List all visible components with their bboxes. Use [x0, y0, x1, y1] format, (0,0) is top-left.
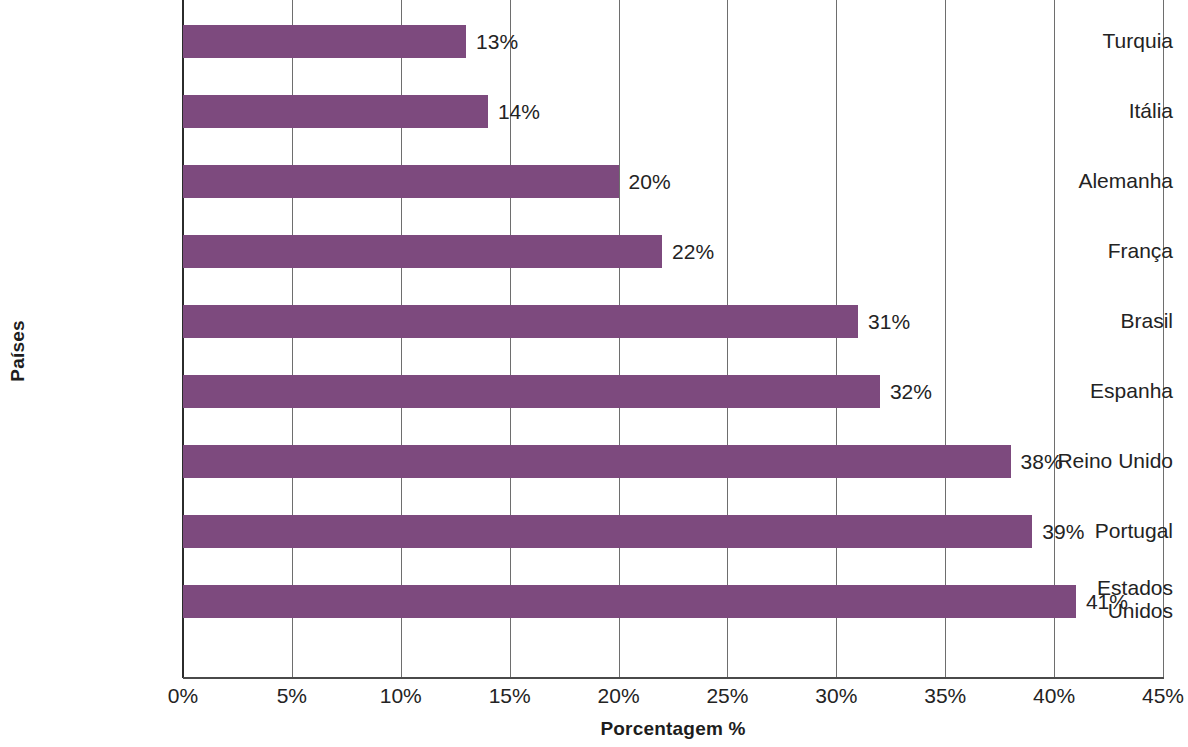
category-label: França	[1008, 239, 1183, 263]
bar-value-label: 31%	[868, 305, 910, 338]
x-tick-label: 35%	[900, 684, 990, 708]
bar-value-label: 22%	[672, 235, 714, 268]
x-tick-label: 15%	[465, 684, 555, 708]
bar-value-label: 32%	[890, 375, 932, 408]
gridline	[619, 0, 620, 678]
x-tick-label: 25%	[682, 684, 772, 708]
bar	[183, 445, 1011, 478]
x-tick-label: 40%	[1009, 684, 1099, 708]
bar	[183, 165, 619, 198]
bar	[183, 25, 466, 58]
category-label: Espanha	[1008, 379, 1183, 403]
category-label: Brasil	[1008, 309, 1183, 333]
category-label: Estados Unidos	[1008, 576, 1183, 623]
category-label: Itália	[1008, 99, 1183, 123]
category-label: Alemanha	[1008, 169, 1183, 193]
x-axis-baseline	[183, 677, 1164, 679]
category-label: Turquia	[1008, 29, 1183, 53]
bar	[183, 585, 1076, 618]
bar	[183, 515, 1032, 548]
bar-value-label: 13%	[476, 25, 518, 58]
x-tick-label: 20%	[574, 684, 664, 708]
gridline	[945, 0, 946, 678]
bar-value-label: 20%	[629, 165, 671, 198]
bar	[183, 95, 488, 128]
x-tick-label: 0%	[138, 684, 228, 708]
x-axis-title: Porcentagem %	[183, 718, 1163, 740]
y-axis-title: Países	[7, 301, 29, 401]
gridline	[727, 0, 728, 678]
x-tick-label: 5%	[247, 684, 337, 708]
bar-value-label: 14%	[498, 95, 540, 128]
gridline	[836, 0, 837, 678]
bar	[183, 235, 662, 268]
x-tick-label: 45%	[1118, 684, 1188, 708]
bar	[183, 375, 880, 408]
category-label: Reino Unido	[1008, 449, 1183, 473]
x-tick-label: 30%	[791, 684, 881, 708]
category-label: Portugal	[1008, 519, 1183, 543]
bar	[183, 305, 858, 338]
x-tick-label: 10%	[356, 684, 446, 708]
